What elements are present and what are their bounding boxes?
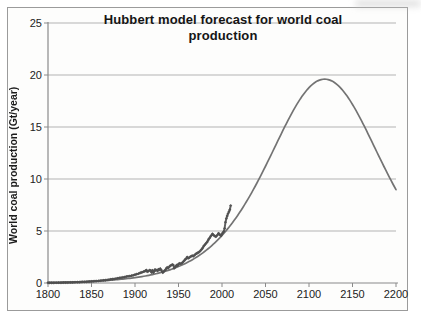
chart-title: Hubbert model forecast for world coal pr… bbox=[93, 12, 353, 44]
historical-data-line bbox=[48, 206, 231, 283]
x-tick-label: 1950 bbox=[161, 288, 197, 300]
x-tick-label: 2200 bbox=[378, 288, 414, 300]
plot-area bbox=[0, 0, 421, 318]
y-tick-label: 15 bbox=[18, 121, 42, 133]
x-tick-label: 2100 bbox=[291, 288, 327, 300]
y-tick-label: 0 bbox=[18, 277, 42, 289]
y-tick-label: 20 bbox=[18, 69, 42, 81]
x-tick-label: 1800 bbox=[30, 288, 66, 300]
y-tick-label: 10 bbox=[18, 173, 42, 185]
y-axis-title: World coal production (Gt/year) bbox=[5, 50, 20, 280]
gridlines bbox=[48, 23, 396, 231]
historical-data-markers bbox=[46, 204, 232, 285]
y-tick-label: 25 bbox=[18, 17, 42, 29]
x-tick-label: 2150 bbox=[335, 288, 371, 300]
model-curve-line bbox=[48, 79, 396, 282]
x-tick-label: 1900 bbox=[117, 288, 153, 300]
scan-artifact bbox=[355, 0, 421, 7]
x-tick-label: 2000 bbox=[204, 288, 240, 300]
hubbert-coal-chart: Hubbert model forecast for world coal pr… bbox=[0, 0, 421, 318]
y-tick-label: 5 bbox=[18, 225, 42, 237]
x-tick-label: 1850 bbox=[74, 288, 110, 300]
x-tick-label: 2050 bbox=[248, 288, 284, 300]
axes bbox=[44, 22, 398, 287]
